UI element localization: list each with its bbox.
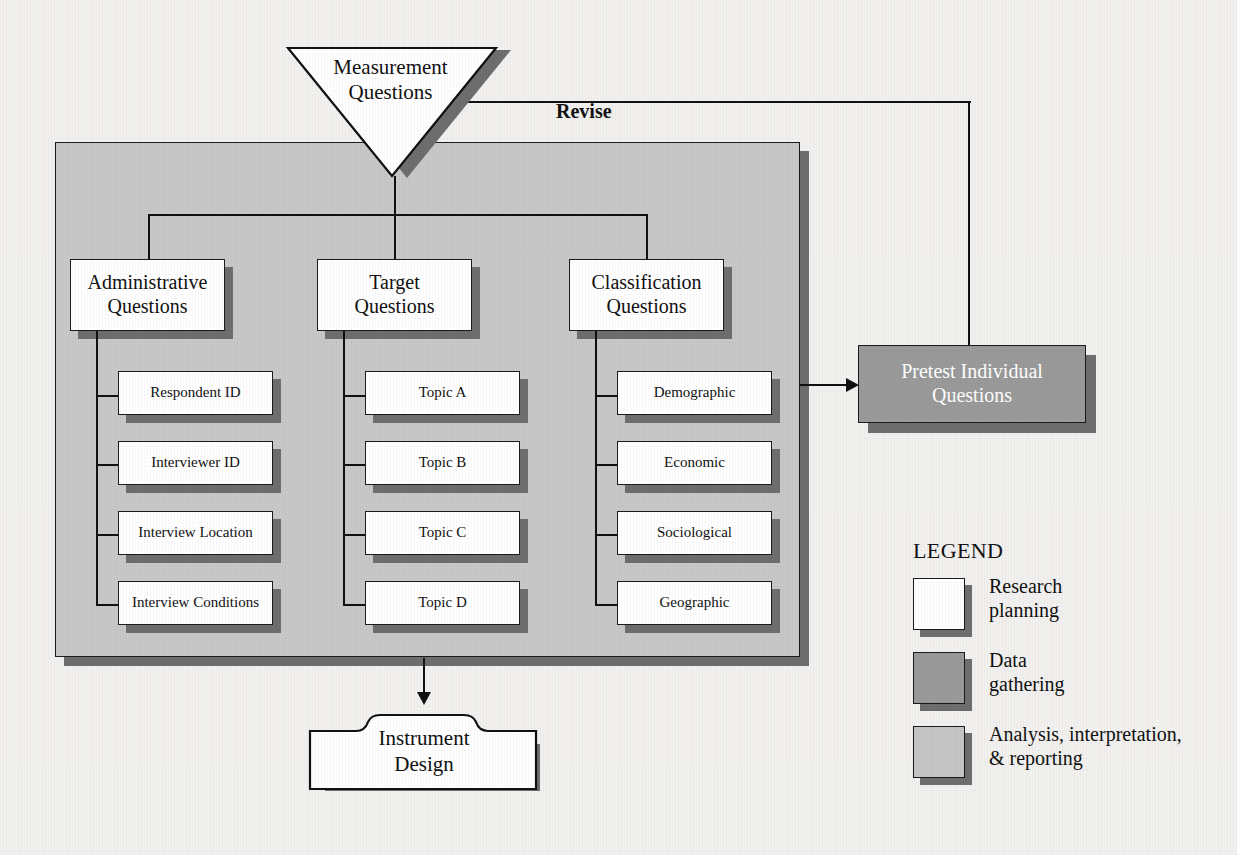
legend-label-research-planning: Research planning [989,574,1062,623]
connector-spine-col1 [96,331,98,605]
legend-swatch-research-planning [913,578,965,630]
item-topic-b[interactable]: Topic B [365,441,520,485]
measurement-questions-label: Measurement Questions [283,55,498,105]
legend-row-research-planning: Research planning [913,574,1213,648]
connector-spine-col3 [595,331,597,605]
column-header-classification[interactable]: Classification Questions [569,259,724,331]
connector-drop-col1 [148,214,150,261]
legend-swatch-analysis [913,726,965,778]
connector-to-pretest [800,384,850,386]
item-respondent-id[interactable]: Respondent ID [118,371,273,415]
instrument-design-label: Instrument Design [308,725,540,778]
column-header-target[interactable]: Target Questions [317,259,472,331]
legend: LEGEND Research planning Data gathering … [913,538,1213,796]
legend-label-data-gathering: Data gathering [989,648,1065,697]
connector-to-instrument [423,658,425,696]
connector-revise-vertical [968,101,970,346]
connector-triangle-stem [394,176,396,216]
legend-swatch-data-gathering [913,652,965,704]
column-header-administrative[interactable]: Administrative Questions [70,259,225,331]
legend-title: LEGEND [913,538,1213,564]
legend-row-analysis: Analysis, interpretation, & reporting [913,722,1213,796]
revise-label: Revise [556,100,612,123]
item-demographic[interactable]: Demographic [617,371,772,415]
connector-revise-horizontal [462,101,971,103]
connector-bus [148,214,648,216]
item-economic[interactable]: Economic [617,441,772,485]
item-interviewer-id[interactable]: Interviewer ID [118,441,273,485]
item-topic-a[interactable]: Topic A [365,371,520,415]
connector-drop-col3 [646,214,648,261]
item-topic-d[interactable]: Topic D [365,581,520,625]
item-geographic[interactable]: Geographic [617,581,772,625]
connector-drop-col2 [394,214,396,261]
diagram-canvas: Measurement Questions Administrative Que… [0,0,1237,855]
pretest-individual-questions-node[interactable]: Pretest Individual Questions [858,345,1086,423]
arrowhead-to-instrument-icon [417,692,431,705]
legend-row-data-gathering: Data gathering [913,648,1213,722]
item-interview-location[interactable]: Interview Location [118,511,273,555]
legend-label-analysis: Analysis, interpretation, & reporting [989,722,1182,771]
item-sociological[interactable]: Sociological [617,511,772,555]
item-interview-conditions[interactable]: Interview Conditions [118,581,273,625]
connector-spine-col2 [343,331,345,605]
item-topic-c[interactable]: Topic C [365,511,520,555]
